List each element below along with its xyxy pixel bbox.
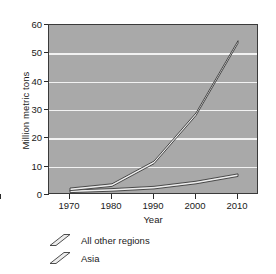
y-tick-label: 40 [24,77,42,87]
x-tick-mark [237,194,238,199]
plot-area [48,24,258,194]
legend-item-asia: Asia [49,250,249,268]
x-tick-label: 1990 [133,201,173,211]
legend-item-all-other-regions: All other regions [49,232,249,250]
series-line [70,174,238,193]
chart-figure: Million metric tons 0 10 20 30 40 50 60 … [0,0,276,274]
x-tick-mark [0,194,1,199]
y-tick-label: 20 [24,133,42,143]
y-tick-label: 30 [24,105,42,115]
y-tick-label: 10 [24,162,42,172]
chart-legend: All other regions Asia [49,232,249,268]
y-tick-label: 0 [24,190,42,200]
y-tick-mark [44,194,49,195]
series-line [70,41,238,191]
x-tick-label: 2010 [217,201,257,211]
diagonal-ribbon-icon [49,251,71,265]
diagonal-ribbon-icon [49,233,71,247]
x-tick-mark [153,194,154,199]
x-tick-label: 1980 [91,201,131,211]
y-tick-label: 60 [24,20,42,30]
y-tick-label: 50 [24,48,42,58]
series-lines [49,25,258,194]
x-tick-mark [195,194,196,199]
x-tick-label: 1970 [49,201,89,211]
legend-label: Asia [81,253,99,264]
legend-label: All other regions [81,235,150,246]
x-axis-label: Year [48,214,258,225]
y-axis-tick-labels: 0 10 20 30 40 50 60 [24,0,42,274]
x-tick-mark [69,194,70,199]
x-tick-mark [111,194,112,199]
x-tick-label: 2000 [175,201,215,211]
